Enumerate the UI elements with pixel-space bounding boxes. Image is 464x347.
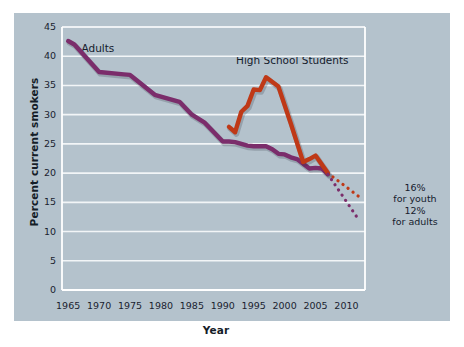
projection-lines — [328, 173, 359, 220]
smoking-prevalence-chart: Percent current smokers Year AdultsHigh … — [0, 0, 464, 347]
adults-projection — [328, 174, 359, 220]
youth-projection — [328, 173, 359, 196]
series-line-high-school-students — [229, 77, 328, 173]
series-lines — [68, 41, 329, 176]
gridlines — [62, 27, 365, 261]
plot-area — [0, 0, 464, 347]
